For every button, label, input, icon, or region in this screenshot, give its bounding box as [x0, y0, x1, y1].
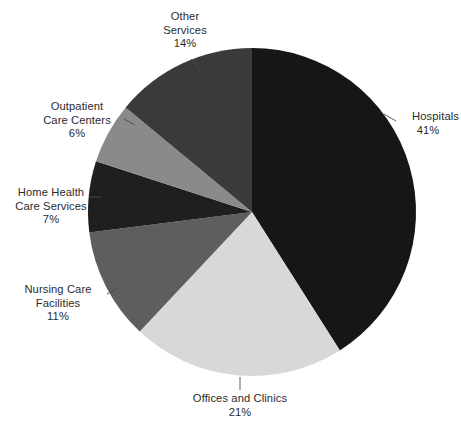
pie-label-outpatient-care-centers-line1: Outpatient: [22, 100, 132, 114]
pie-label-offices-and-clinics: Offices and Clinics 21%: [166, 392, 314, 419]
pie-label-nursing-care-facilities-line2: Facilities: [10, 297, 106, 311]
pie-label-home-health-care-services-line1: Home Health: [0, 186, 102, 200]
pie-label-home-health-care-services-line2: Care Services: [0, 200, 102, 214]
pie-label-outpatient-care-centers-line2: Care Centers: [22, 114, 132, 128]
pie-label-offices-and-clinics-value: 21%: [166, 406, 314, 420]
pie-label-other-services-line1: Other: [133, 10, 237, 24]
pie-slices: [88, 48, 416, 376]
pie-label-nursing-care-facilities-line1: Nursing Care: [10, 283, 106, 297]
pie-label-nursing-care-facilities-value: 11%: [10, 310, 106, 324]
pie-label-outpatient-care-centers: Outpatient Care Centers 6%: [22, 100, 132, 141]
pie-label-hospitals-line1: Hospitals: [397, 110, 459, 124]
pie-label-home-health-care-services-value: 7%: [0, 213, 102, 227]
pie-label-home-health-care-services: Home Health Care Services 7%: [0, 186, 102, 227]
pie-label-nursing-care-facilities: Nursing Care Facilities 11%: [10, 283, 106, 324]
pie-label-outpatient-care-centers-value: 6%: [22, 127, 132, 141]
pie-label-other-services: Other Services 14%: [133, 10, 237, 51]
pie-label-other-services-value: 14%: [133, 37, 237, 51]
pie-label-hospitals: Hospitals 41%: [397, 110, 459, 137]
pie-label-offices-and-clinics-line1: Offices and Clinics: [166, 392, 314, 406]
pie-label-other-services-line2: Services: [133, 24, 237, 38]
pie-chart-figure: Other Services 14% Hospitals 41% Outpati…: [0, 0, 461, 431]
pie-label-hospitals-value: 41%: [397, 124, 459, 138]
